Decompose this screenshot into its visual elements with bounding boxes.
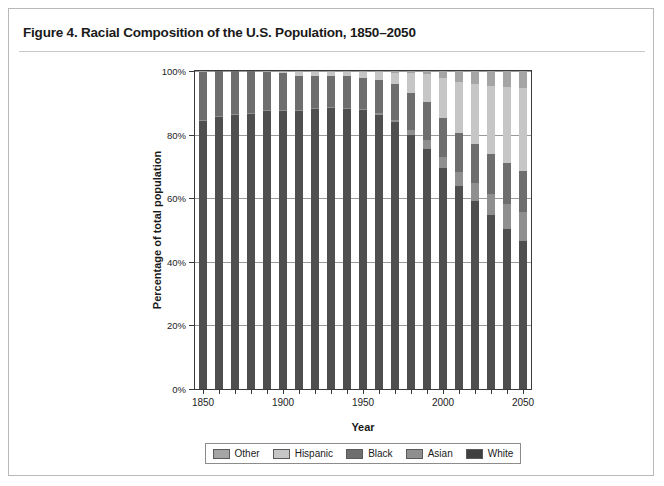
bar-segment-hispanic <box>439 78 447 118</box>
bar-segment-black <box>471 144 479 183</box>
bar-1970 <box>391 71 399 389</box>
bar-segment-black <box>391 84 399 119</box>
bar-segment-black <box>519 171 527 212</box>
x-axis-tick-label: 1900 <box>272 397 294 408</box>
y-axis-tick <box>189 135 195 136</box>
x-axis-tick <box>267 389 268 394</box>
y-axis-tick <box>189 262 195 263</box>
x-axis-tick <box>379 389 380 394</box>
x-axis-tick <box>443 389 444 394</box>
bar-segment-white <box>359 110 367 389</box>
bar-1870 <box>231 71 239 389</box>
bar-segment-white <box>423 149 431 389</box>
x-axis-tick <box>299 389 300 394</box>
legend-item-asian: Asian <box>406 448 453 459</box>
x-axis-tick <box>507 389 508 394</box>
plot-canvas: 0%20%40%60%80%100% 18501900195020002050 <box>195 71 531 389</box>
legend-item-black: Black <box>346 448 392 459</box>
x-axis-tick <box>251 389 252 394</box>
figure-frame: Figure 4. Racial Composition of the U.S.… <box>8 8 654 476</box>
bar-segment-hispanic <box>503 87 511 163</box>
y-axis-tick <box>189 198 195 199</box>
bar-segment-white <box>375 115 383 389</box>
x-axis-tick <box>459 389 460 394</box>
y-axis-tick-label: 100% <box>162 66 186 77</box>
bar-segment-white <box>487 215 495 389</box>
bar-segment-black <box>407 93 415 130</box>
bar-2000 <box>439 71 447 389</box>
chart-legend: OtherHispanicBlackAsianWhite <box>205 443 521 464</box>
bar-segment-black <box>503 163 511 204</box>
bar-2050 <box>519 71 527 389</box>
bar-segment-black <box>215 71 223 116</box>
legend-swatch-hispanic <box>273 449 290 459</box>
x-axis-tick <box>523 389 524 394</box>
bar-segment-black <box>487 154 495 194</box>
bar-segment-white <box>295 111 303 389</box>
x-axis-tick <box>347 389 348 394</box>
bar-segment-hispanic <box>407 73 415 93</box>
plot-right-border <box>531 70 532 390</box>
bar-1990 <box>423 71 431 389</box>
bar-1930 <box>327 71 335 389</box>
bar-segment-white <box>311 109 319 389</box>
legend-item-hispanic: Hispanic <box>273 448 333 459</box>
y-axis-title: Percentage of total population <box>149 71 165 389</box>
bar-segment-black <box>439 118 447 157</box>
legend-swatch-white <box>466 449 483 459</box>
bar-2020 <box>471 71 479 389</box>
legend-item-white: White <box>466 448 514 459</box>
y-axis-tick-label: 20% <box>167 320 186 331</box>
bar-segment-white <box>231 115 239 389</box>
bar-segment-hispanic <box>391 73 399 85</box>
bar-segment-white <box>327 108 335 389</box>
bar-1910 <box>295 71 303 389</box>
x-axis-tick <box>427 389 428 394</box>
bar-segment-black <box>375 80 383 113</box>
bar-1950 <box>359 71 367 389</box>
x-axis-tick <box>491 389 492 394</box>
bar-segment-asian <box>455 172 463 187</box>
legend-swatch-other <box>213 449 230 459</box>
bar-segment-hispanic <box>455 82 463 133</box>
bar-segment-black <box>343 76 351 107</box>
x-axis-tick-label: 2050 <box>512 397 534 408</box>
bar-segment-asian <box>503 204 511 229</box>
bar-1960 <box>375 71 383 389</box>
bar-segment-asian <box>519 212 527 241</box>
bar-segment-asian <box>439 157 447 169</box>
bar-segment-hispanic <box>519 88 527 171</box>
x-axis-tick <box>203 389 204 394</box>
bar-2010 <box>455 71 463 389</box>
legend-label-asian: Asian <box>428 448 453 459</box>
x-axis-tick <box>411 389 412 394</box>
bar-segment-black <box>247 71 255 112</box>
bar-segment-black <box>279 73 287 110</box>
x-axis-title: Year <box>195 421 531 433</box>
bar-segment-hispanic <box>487 86 495 154</box>
bar-segment-black <box>423 102 431 140</box>
bar-segment-other <box>503 71 511 87</box>
bar-segment-white <box>247 114 255 389</box>
bar-segment-white <box>503 229 511 389</box>
x-axis-tick-label: 1950 <box>352 397 374 408</box>
bar-segment-black <box>359 78 367 110</box>
x-axis-tick <box>395 389 396 394</box>
bar-2040 <box>503 71 511 389</box>
bar-segment-white <box>391 122 399 389</box>
legend-item-other: Other <box>213 448 260 459</box>
bar-segment-black <box>199 72 207 120</box>
y-axis-tick-label: 40% <box>167 256 186 267</box>
y-axis-tick <box>189 71 195 72</box>
bar-segment-white <box>263 111 271 389</box>
x-axis-tick-label: 1850 <box>192 397 214 408</box>
bar-segment-white <box>455 186 463 389</box>
legend-swatch-black <box>346 449 363 459</box>
x-axis-tick <box>331 389 332 394</box>
bar-2030 <box>487 71 495 389</box>
y-axis-title-text: Percentage of total population <box>151 151 163 309</box>
bar-1860 <box>215 71 223 389</box>
bar-segment-white <box>471 201 479 389</box>
bar-1900 <box>279 71 287 389</box>
bar-segment-white <box>215 117 223 389</box>
